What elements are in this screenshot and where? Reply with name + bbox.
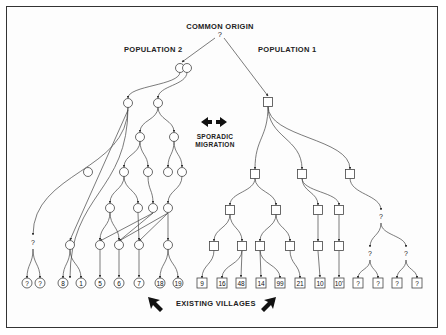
population-1-village-node (256, 242, 265, 251)
existing-village: ? (412, 278, 422, 288)
population-1-village-node (335, 242, 344, 251)
village-number: 48 (237, 280, 245, 287)
population-2-village-node (154, 99, 163, 108)
existing-village: 19 (173, 278, 183, 288)
population-2-village-node (84, 168, 93, 177)
unknown-ancestor-mark: ? (31, 239, 35, 246)
village-number: 18 (156, 280, 164, 287)
tree-edges (27, 38, 417, 278)
population-1-village-node (298, 170, 307, 179)
tree-nodes: ???? (31, 64, 408, 258)
population-2-label: POPULATION 2 (124, 45, 182, 54)
population-1-label: POPULATION 1 (258, 45, 316, 54)
population-2-village-node (120, 168, 129, 177)
existing-village: ? (392, 278, 402, 288)
population-1-village-node (314, 242, 323, 251)
population-2-village-node (136, 133, 145, 142)
population-2-village-node (134, 204, 143, 213)
population-1-village-node (264, 98, 273, 107)
existing-village: ? (35, 278, 45, 288)
village-number: 10' (335, 280, 343, 287)
village-number: ? (376, 280, 380, 287)
village-number: ? (25, 280, 29, 287)
village-number: 21 (296, 280, 304, 287)
existing-village: 5 (95, 278, 105, 288)
village-number: 5 (98, 280, 102, 287)
existing-village: 99 (275, 278, 285, 288)
existing-villages-row: ??815671819916481499211010'???? (22, 278, 422, 288)
village-number: 14 (257, 280, 265, 287)
village-number: 1 (79, 280, 83, 287)
village-number: 8 (61, 280, 65, 287)
population-1-village-node (335, 206, 344, 215)
population-2-village-node (149, 204, 158, 213)
migration-label-line1: SPORADIC (190, 133, 240, 140)
migration-label-line2: MIGRATION (190, 141, 240, 148)
population-1-village-node (286, 242, 295, 251)
village-number: 99 (276, 280, 284, 287)
population-1-village-node (251, 170, 260, 179)
population-2-village-node (170, 133, 179, 142)
population-1-village-node (314, 206, 323, 215)
population-2-village-node (115, 241, 124, 250)
origin-question-mark: ? (205, 30, 235, 39)
population-2-village-node (144, 168, 153, 177)
existing-village: 8 (58, 278, 68, 288)
existing-village: ? (353, 278, 363, 288)
sporadic-migration-arrow-icon (201, 117, 227, 127)
population-2-village-node (124, 99, 133, 108)
existing-village: 10' (334, 278, 344, 288)
population-2-village-node (66, 241, 75, 250)
village-number: 16 (218, 280, 226, 287)
village-number: 10 (316, 280, 324, 287)
population-1-village-node (238, 242, 247, 251)
unknown-ancestor-mark: ? (379, 213, 383, 220)
population-2-village-node (164, 204, 173, 213)
population-2-village-node (178, 168, 187, 177)
village-number: 9 (200, 280, 204, 287)
population-2-village-node (164, 168, 173, 177)
unknown-ancestor-mark: ? (404, 250, 408, 257)
population-1-village-node (346, 170, 355, 179)
existing-village: 18 (155, 278, 165, 288)
existing-village: 10 (315, 278, 325, 288)
population-2-village-node (164, 241, 173, 250)
population-2-village-node (135, 241, 144, 250)
unknown-ancestor-mark: ? (368, 250, 372, 257)
village-number: ? (395, 280, 399, 287)
existing-village: 6 (114, 278, 124, 288)
existing-village: 16 (217, 278, 227, 288)
existing-village: 9 (197, 278, 207, 288)
population-2-village-node (96, 241, 105, 250)
village-number: 19 (174, 280, 182, 287)
existing-village: 48 (236, 278, 246, 288)
population-2-village-node (106, 204, 115, 213)
village-number: ? (415, 280, 419, 287)
existing-village: ? (373, 278, 383, 288)
population-2-village-node (183, 64, 192, 73)
existing-village: ? (22, 278, 32, 288)
population-1-village-node (272, 206, 281, 215)
existing-village: 7 (134, 278, 144, 288)
village-number: 6 (117, 280, 121, 287)
existing-village: 14 (256, 278, 266, 288)
existing-village: 1 (76, 278, 86, 288)
population-1-village-node (226, 206, 235, 215)
genealogy-tree: ???? ??815671819916481499211010'???? (0, 0, 446, 335)
existing-villages-label: EXISTING VILLAGES (176, 299, 256, 308)
village-number: ? (38, 280, 42, 287)
village-number: 7 (137, 280, 141, 287)
population-1-village-node (210, 242, 219, 251)
existing-village: 21 (295, 278, 305, 288)
village-number: ? (356, 280, 360, 287)
